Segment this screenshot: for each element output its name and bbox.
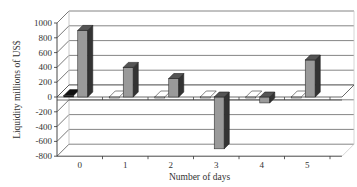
chart: 10008006004002000-200-400-600-800012345N…: [0, 0, 357, 187]
grid-diag: [57, 41, 69, 53]
grid-diag: [57, 129, 69, 141]
bar-series-b: [305, 60, 315, 97]
bar-series-b: [78, 30, 88, 97]
x-tick-label: 5: [305, 160, 310, 170]
grid-diag: [57, 55, 69, 67]
grid-diag: [57, 11, 69, 23]
y-tick-label: -800: [36, 151, 53, 161]
y-tick-label: 400: [39, 62, 53, 72]
grid-diag: [57, 144, 69, 156]
grid-diag: [57, 100, 69, 112]
x-tick-label: 1: [123, 160, 128, 170]
grid-diag: [57, 70, 69, 82]
y-tick-label: 1000: [34, 18, 53, 28]
y-tick-label: -400: [36, 122, 53, 132]
x-tick-label: 3: [214, 160, 219, 170]
x-axis-title: Number of days: [169, 172, 231, 182]
x-tick-label: 4: [260, 160, 265, 170]
bar-series-b: [169, 79, 179, 98]
y-tick-label: 0: [48, 92, 53, 102]
x-tick-label: 0: [78, 160, 83, 170]
grid-diag: [57, 115, 69, 127]
y-tick-label: 600: [39, 48, 53, 58]
bar-series-b: [260, 97, 270, 103]
y-tick-label: -200: [36, 107, 53, 117]
x-tick-label: 2: [169, 160, 174, 170]
grid-diag: [57, 26, 69, 38]
bar-series-b: [214, 97, 224, 149]
y-tick-label: 200: [39, 77, 53, 87]
y-tick-label: -600: [36, 136, 53, 146]
bar-series-b: [123, 67, 133, 97]
y-axis-title: Liquidity millions of US$: [12, 40, 22, 139]
y-tick-label: 800: [39, 33, 53, 43]
